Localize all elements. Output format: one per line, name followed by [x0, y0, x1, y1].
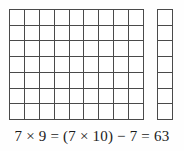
unit-square	[40, 10, 55, 26]
unit-square	[25, 41, 40, 57]
main-array-grid	[9, 9, 144, 120]
unit-square	[129, 89, 144, 105]
unit-square	[55, 104, 70, 120]
unit-square	[158, 73, 173, 89]
unit-square	[55, 57, 70, 73]
unit-square	[158, 104, 173, 120]
unit-square	[158, 26, 173, 42]
unit-square	[55, 89, 70, 105]
unit-square	[84, 57, 99, 73]
unit-square	[84, 89, 99, 105]
unit-square	[129, 41, 144, 57]
unit-square	[40, 41, 55, 57]
unit-square	[70, 73, 85, 89]
unit-square	[55, 41, 70, 57]
unit-square	[25, 26, 40, 42]
unit-square	[10, 26, 25, 42]
unit-square	[55, 73, 70, 89]
unit-square	[114, 26, 129, 42]
unit-square	[25, 89, 40, 105]
unit-square	[55, 10, 70, 26]
unit-square	[114, 41, 129, 57]
unit-square	[114, 104, 129, 120]
unit-square	[70, 41, 85, 57]
unit-square	[158, 41, 173, 57]
unit-square	[129, 26, 144, 42]
unit-square	[158, 10, 173, 26]
unit-square	[55, 26, 70, 42]
unit-square	[25, 73, 40, 89]
unit-square	[99, 104, 114, 120]
unit-square	[10, 73, 25, 89]
unit-square	[40, 26, 55, 42]
unit-square	[70, 104, 85, 120]
unit-square	[99, 26, 114, 42]
unit-square	[158, 57, 173, 73]
unit-square	[158, 89, 173, 105]
unit-square	[129, 57, 144, 73]
unit-square	[40, 89, 55, 105]
unit-square	[129, 73, 144, 89]
unit-square	[84, 104, 99, 120]
unit-square	[99, 57, 114, 73]
multiplication-array-figure: 7 × 9 = (7 × 10) − 7 = 63	[0, 0, 184, 151]
unit-square	[25, 57, 40, 73]
unit-square	[129, 104, 144, 120]
unit-square	[99, 10, 114, 26]
unit-square	[40, 57, 55, 73]
unit-square	[114, 10, 129, 26]
unit-square	[10, 89, 25, 105]
unit-square	[40, 104, 55, 120]
unit-square	[10, 41, 25, 57]
unit-square	[70, 10, 85, 26]
unit-square	[25, 104, 40, 120]
unit-square	[114, 57, 129, 73]
unit-square	[99, 89, 114, 105]
unit-square	[99, 73, 114, 89]
equation-caption: 7 × 9 = (7 × 10) − 7 = 63	[0, 126, 184, 146]
unit-square	[114, 89, 129, 105]
unit-square	[114, 73, 129, 89]
unit-square	[40, 73, 55, 89]
unit-square	[10, 10, 25, 26]
unit-square	[70, 26, 85, 42]
unit-square	[84, 73, 99, 89]
unit-square	[10, 57, 25, 73]
unit-square	[84, 10, 99, 26]
unit-square	[70, 89, 85, 105]
unit-square	[84, 41, 99, 57]
unit-square	[70, 57, 85, 73]
unit-square	[99, 41, 114, 57]
unit-square	[84, 26, 99, 42]
unit-square	[129, 10, 144, 26]
extra-column-grid	[157, 9, 173, 120]
unit-square	[10, 104, 25, 120]
unit-square	[25, 10, 40, 26]
